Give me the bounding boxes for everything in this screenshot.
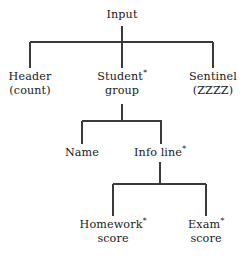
node-homework-score: Homework* score xyxy=(80,218,147,245)
node-header-sublabel: (count) xyxy=(9,84,52,98)
repetition-marker-icon: * xyxy=(182,144,186,153)
node-info-line-label: Info line xyxy=(134,146,182,159)
node-sentinel-sublabel: (ZZZZ) xyxy=(189,84,237,98)
node-info-line-label-line: Info line* xyxy=(134,146,186,160)
node-input-label: Input xyxy=(107,8,138,22)
repetition-marker-icon: * xyxy=(143,68,147,77)
node-homework-score-label: Homework xyxy=(80,218,143,231)
node-sentinel-label: Sentinel xyxy=(189,70,237,84)
node-name-label: Name xyxy=(65,146,99,160)
node-exam-score-sublabel: score xyxy=(188,232,224,246)
structure-chart-diagram: Input Header (count) Student* group Sent… xyxy=(0,0,244,256)
node-student-group-sublabel: group xyxy=(97,84,146,98)
repetition-marker-icon: * xyxy=(220,216,224,225)
node-homework-score-sublabel: score xyxy=(80,232,147,246)
node-student-group-label: Student xyxy=(97,70,143,83)
repetition-marker-icon: * xyxy=(143,216,147,225)
node-student-group-label-line: Student* xyxy=(97,70,146,84)
node-header: Header (count) xyxy=(9,70,52,97)
node-student-group: Student* group xyxy=(97,70,146,97)
node-exam-score: Exam* score xyxy=(188,218,224,245)
node-exam-score-label: Exam xyxy=(188,218,220,231)
node-exam-score-label-line: Exam* xyxy=(188,218,224,232)
node-homework-score-label-line: Homework* xyxy=(80,218,147,232)
node-input: Input xyxy=(107,8,138,22)
node-name: Name xyxy=(65,146,99,160)
node-info-line: Info line* xyxy=(134,146,186,160)
node-sentinel: Sentinel (ZZZZ) xyxy=(189,70,237,97)
node-header-label: Header xyxy=(9,70,52,84)
